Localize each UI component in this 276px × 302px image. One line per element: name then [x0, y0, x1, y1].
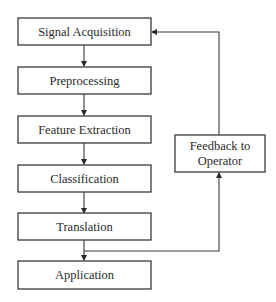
- node-preprocessing: Preprocessing: [18, 67, 151, 94]
- node-feedback-to-operator: Feedback to Operator: [175, 135, 265, 172]
- node-signal-acquisition: Signal Acquisition: [18, 18, 151, 45]
- flowchart: Signal Acquisition Preprocessing Feature…: [0, 0, 276, 302]
- node-label: Feature Extraction: [38, 123, 131, 137]
- node-translation: Translation: [18, 213, 151, 240]
- edge-feedback-to-signal: [152, 32, 219, 135]
- node-label-line-2: Operator: [198, 154, 243, 168]
- node-label-line-1: Feedback to: [190, 139, 251, 153]
- node-label: Application: [55, 268, 115, 282]
- node-application: Application: [18, 261, 151, 289]
- node-label: Translation: [56, 220, 113, 234]
- node-classification: Classification: [18, 165, 151, 192]
- node-feature-extraction: Feature Extraction: [18, 116, 151, 143]
- node-label: Preprocessing: [49, 74, 120, 88]
- node-label: Signal Acquisition: [38, 25, 131, 39]
- node-label: Classification: [50, 172, 119, 186]
